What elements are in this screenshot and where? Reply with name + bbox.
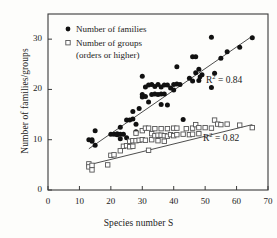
data-point-group	[162, 139, 166, 143]
data-point-family	[90, 139, 95, 144]
x-tick-label: 0	[36, 196, 60, 206]
data-point-group	[159, 126, 163, 130]
data-point-family	[93, 143, 98, 148]
legend-label-families: Number of families	[76, 24, 146, 34]
r2-groups-value: = 0.82	[213, 133, 240, 143]
data-point-family	[130, 117, 135, 122]
data-point-family	[134, 122, 139, 127]
x-tick-label: 10	[67, 196, 91, 206]
data-point-family	[209, 35, 214, 40]
data-point-family	[225, 49, 230, 54]
data-point-group	[146, 148, 150, 152]
data-point-group	[118, 149, 122, 153]
data-point-group	[165, 126, 169, 130]
y-axis-title-wrapper: Number of families/groups	[14, 6, 32, 196]
data-point-group	[131, 144, 135, 148]
data-point-group	[134, 131, 138, 135]
x-tick-label: 60	[225, 196, 249, 206]
data-point-group	[203, 125, 207, 129]
legend-marker-filled-circle	[66, 27, 71, 32]
data-point-family	[159, 102, 164, 107]
data-point-group	[90, 163, 94, 167]
data-point-family	[146, 100, 151, 105]
legend-label-groups: Number of groups	[76, 38, 142, 48]
data-point-family	[118, 136, 123, 141]
data-point-group	[250, 125, 254, 129]
data-point-family	[171, 87, 176, 92]
data-point-group	[175, 126, 179, 130]
data-point-family	[209, 85, 214, 90]
data-point-group	[146, 126, 150, 130]
data-point-family	[162, 91, 167, 96]
x-tick-label: 30	[130, 196, 154, 206]
data-point-group	[106, 163, 110, 167]
x-tick-label: 70	[256, 196, 277, 206]
data-point-group	[197, 131, 201, 135]
data-point-group	[184, 126, 188, 130]
data-point-family	[196, 67, 201, 72]
r2-families-bullet-marker	[198, 75, 203, 80]
data-point-group	[197, 125, 201, 129]
data-point-family	[165, 103, 170, 108]
data-point-family	[93, 128, 98, 133]
data-point-family	[190, 78, 195, 83]
data-point-family	[143, 94, 148, 99]
r2-annotation-groups: R2 = 0.82	[203, 131, 239, 143]
data-point-family	[237, 45, 242, 50]
r2-families-value: = 0.84	[216, 75, 243, 85]
legend-label-groups-sub: (orders or higher)	[76, 50, 139, 60]
x-tick-label: 20	[99, 196, 123, 206]
r2-annotation-families: R2 = 0.84	[206, 73, 242, 85]
data-point-group	[238, 123, 242, 127]
data-point-family	[250, 35, 255, 40]
data-point-family	[193, 54, 198, 59]
data-point-family	[118, 125, 123, 130]
scatter-chart-figure: 010203040506070 0102030 Number of famili…	[0, 0, 277, 238]
data-point-family	[130, 109, 135, 114]
data-point-group	[175, 132, 179, 136]
legend-marker-open-square	[66, 41, 70, 45]
data-point-group	[112, 153, 116, 157]
data-point-group	[153, 126, 157, 130]
data-point-group	[225, 122, 229, 126]
data-point-group	[90, 168, 94, 172]
x-axis-title: Species number S	[0, 218, 277, 228]
x-tick-label: 40	[162, 196, 186, 206]
data-point-group	[181, 132, 185, 136]
data-point-group	[219, 122, 223, 126]
data-point-group	[190, 132, 194, 136]
x-tick-label: 50	[193, 196, 217, 206]
data-point-family	[174, 64, 179, 69]
y-axis-title: Number of families/groups	[20, 48, 30, 153]
data-point-family	[218, 56, 223, 61]
axis-ticks	[48, 39, 268, 190]
data-point-group	[143, 138, 147, 142]
data-point-group	[156, 139, 160, 143]
data-point-family	[137, 106, 142, 111]
data-point-family	[178, 82, 183, 87]
data-point-group	[209, 126, 213, 130]
data-point-family	[140, 74, 145, 79]
data-point-family	[181, 117, 186, 122]
